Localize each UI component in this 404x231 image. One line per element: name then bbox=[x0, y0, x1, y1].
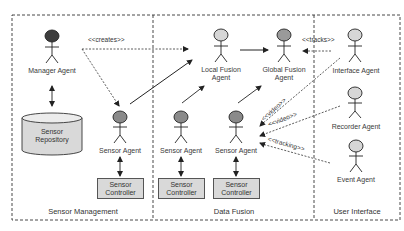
sensor-sm-to-local-fusion bbox=[130, 60, 192, 104]
local-fusion-line1: Local Fusion bbox=[201, 66, 241, 74]
manager-agent-actor-icon bbox=[45, 30, 59, 63]
sensor-repository-label: Sensor Repository bbox=[35, 128, 68, 144]
sensor-agent-sm-label: Sensor Agent bbox=[99, 147, 141, 155]
sensor-df2-to-global-fusion bbox=[238, 86, 261, 103]
sensor-controller-df2: Sensor Controller bbox=[213, 178, 260, 199]
controller-line1: Sensor bbox=[159, 181, 204, 189]
local-fusion-line2: Agent bbox=[201, 74, 241, 82]
interface-agent-actor-icon bbox=[348, 29, 362, 62]
sensor-controller-sm: Sensor Controller bbox=[97, 178, 144, 199]
controller-line2: Controller bbox=[159, 189, 204, 197]
zone-label-data-fusion: Data Fusion bbox=[214, 207, 254, 216]
repository-line1: Sensor bbox=[35, 128, 68, 136]
local-fusion-agent-label: Local Fusion Agent bbox=[201, 66, 241, 82]
zone-label-user-interface: User Interface bbox=[333, 207, 380, 216]
creates-label: <<creates>> bbox=[88, 36, 125, 43]
event-agent-label: Event Agent bbox=[337, 176, 375, 184]
sensor-agent-df2-actor-icon bbox=[229, 111, 243, 143]
tracks-label: <<tracks>> bbox=[302, 36, 335, 43]
agent-architecture-diagram: Manager Agent Sensor Repository Sensor A… bbox=[0, 0, 404, 231]
sensor-agent-sm-actor-icon bbox=[113, 111, 127, 143]
controller-line2: Controller bbox=[214, 189, 259, 197]
sensor-controller-df1: Sensor Controller bbox=[158, 178, 205, 199]
global-fusion-agent-actor-icon bbox=[277, 29, 291, 62]
sensor-agent-df1-actor-icon bbox=[174, 111, 188, 143]
sensor-agent-df1-label: Sensor Agent bbox=[160, 147, 202, 155]
local-fusion-agent-actor-icon bbox=[214, 29, 228, 62]
controller-line2: Controller bbox=[98, 189, 143, 197]
creates-relation bbox=[82, 49, 186, 106]
global-fusion-line2: Agent bbox=[262, 74, 305, 82]
controller-line1: Sensor bbox=[214, 181, 259, 189]
zone-label-sensor-management: Sensor Management bbox=[48, 207, 118, 216]
repository-line2: Repository bbox=[35, 136, 68, 144]
global-fusion-line1: Global Fusion bbox=[262, 66, 305, 74]
manager-agent-label: Manager Agent bbox=[28, 67, 75, 75]
controller-line1: Sensor bbox=[98, 181, 143, 189]
sensor-df1-to-local-fusion bbox=[182, 86, 204, 103]
global-fusion-agent-label: Global Fusion Agent bbox=[262, 66, 305, 82]
event-agent-actor-icon bbox=[349, 140, 363, 172]
interface-agent-label: Interface Agent bbox=[332, 67, 379, 75]
recorder-agent-label: Recorder Agent bbox=[332, 123, 381, 131]
sensor-agent-df2-label: Sensor Agent bbox=[215, 147, 257, 155]
recorder-agent-actor-icon bbox=[348, 87, 362, 118]
